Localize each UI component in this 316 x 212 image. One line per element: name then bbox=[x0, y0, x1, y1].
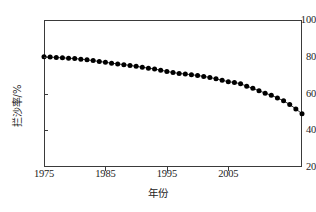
data-point-marker bbox=[140, 65, 145, 70]
data-point-marker bbox=[300, 111, 305, 116]
y-axis-label: 拦沙率/% bbox=[9, 64, 24, 148]
data-point-marker bbox=[226, 79, 231, 84]
x-axis-label: 年份 bbox=[0, 185, 316, 200]
data-point-marker bbox=[66, 56, 71, 61]
y-tick-label: 60 bbox=[276, 89, 316, 99]
data-point-marker bbox=[121, 62, 126, 67]
x-tick-mark bbox=[228, 167, 229, 171]
x-tick-mark bbox=[105, 167, 106, 171]
data-point-marker bbox=[109, 61, 114, 66]
data-point-marker bbox=[164, 69, 169, 74]
data-point-marker bbox=[244, 84, 249, 89]
y-tick-mark bbox=[44, 130, 48, 131]
y-tick-mark bbox=[44, 94, 48, 95]
data-point-marker bbox=[214, 76, 219, 81]
data-point-marker bbox=[263, 91, 268, 96]
data-point-marker bbox=[281, 98, 286, 103]
data-point-marker bbox=[54, 55, 59, 60]
y-tick-label: 80 bbox=[276, 52, 316, 62]
data-point-marker bbox=[201, 74, 206, 79]
data-point-marker bbox=[146, 66, 151, 71]
data-point-marker bbox=[91, 58, 96, 63]
data-point-marker bbox=[293, 106, 298, 111]
data-point-marker bbox=[232, 80, 237, 85]
data-point-marker bbox=[78, 57, 83, 62]
data-point-marker bbox=[250, 86, 255, 91]
data-point-marker bbox=[152, 67, 157, 72]
x-tick-label: 1975 bbox=[22, 168, 66, 179]
series-line bbox=[44, 57, 302, 114]
data-point-marker bbox=[97, 59, 102, 64]
y-tick-label: 100 bbox=[276, 15, 316, 25]
data-point-marker bbox=[207, 75, 212, 80]
data-point-marker bbox=[257, 88, 262, 93]
data-point-marker bbox=[220, 78, 225, 83]
data-point-marker bbox=[189, 72, 194, 77]
data-point-marker bbox=[177, 71, 182, 76]
x-tick-mark bbox=[167, 167, 168, 171]
data-point-marker bbox=[72, 56, 77, 61]
data-point-marker bbox=[171, 70, 176, 75]
data-point-marker bbox=[134, 64, 139, 69]
data-point-marker bbox=[128, 63, 133, 68]
data-point-marker bbox=[48, 55, 53, 60]
y-tick-label: 20 bbox=[276, 162, 316, 172]
data-point-marker bbox=[60, 55, 65, 60]
chart-figure: 20406080100 1975198519952005 拦沙率/% 年份 bbox=[0, 0, 316, 212]
y-tick-label: 40 bbox=[276, 125, 316, 135]
data-point-marker bbox=[238, 81, 243, 86]
data-point-marker bbox=[103, 60, 108, 65]
data-point-marker bbox=[287, 102, 292, 107]
data-point-marker bbox=[115, 61, 120, 66]
y-tick-mark bbox=[44, 57, 48, 58]
data-point-marker bbox=[183, 72, 188, 77]
data-point-marker bbox=[85, 57, 90, 62]
data-point-marker bbox=[195, 73, 200, 78]
data-point-marker bbox=[158, 68, 163, 73]
plot-series-layer bbox=[44, 20, 302, 167]
data-point-marker bbox=[269, 93, 274, 98]
